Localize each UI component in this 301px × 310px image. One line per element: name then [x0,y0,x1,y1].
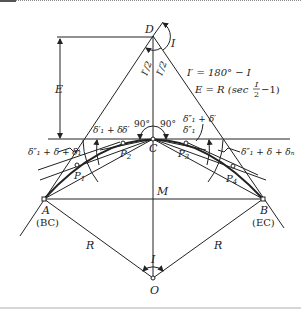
radius-right-line [153,199,263,278]
label-P2: P2 [119,148,132,161]
curve-diagram: D I E C M A (BC) B (EC) R R I O P1 P2 P3… [0,0,301,310]
tangent-left-line [20,36,153,236]
label-I-top: I [170,37,176,50]
point-P4 [231,164,235,168]
label-A: A [41,204,50,217]
label-E: E [54,83,63,96]
label-D: D [144,23,154,36]
angle-arc-I-top [163,23,170,50]
label-P4: P4 [225,173,237,186]
label-M: M [156,185,169,198]
label-delta-right-top-a: δ″₁ + δ′ [183,114,216,124]
formula-E-den: 2 [254,90,259,99]
radius-left-line [44,199,153,278]
label-delta-right-top-b: δ″₁ [183,125,195,135]
point-B [261,197,265,201]
label-90-left: 90° [134,119,150,129]
point-A [42,197,46,201]
label-EC: (EC) [252,217,275,228]
point-O [151,276,155,280]
point-C [151,137,155,141]
label-I-bottom: I [150,253,156,266]
label-delta-right-side: δ″₁ + δ + δₙ [241,147,295,157]
label-90-right: 90° [160,119,176,129]
diagram-frame: D I E C M A (BC) B (EC) R R I O P1 P2 P3… [0,0,301,310]
label-delta-left-side: δ″₁ + δ + δ₁ [28,147,81,157]
label-P1: P1 [73,170,85,183]
label-B: B [259,204,268,217]
label-half-right: I′/2 [154,60,169,78]
formula-E-prefix: E = R (sec [194,84,249,95]
point-P2 [121,141,125,145]
label-half-left: I′/2 [139,60,154,78]
label-R-left: R [85,239,94,252]
label-delta-left-top-a: δ′₁ + δ [93,125,123,135]
label-O: O [150,284,159,297]
point-P1 [75,163,79,167]
leader-right-top [196,124,203,141]
tangent-extension-line [153,22,163,36]
leader-right [218,148,240,152]
label-C: C [149,142,158,155]
point-P3 [184,141,188,145]
deflection-arc-left-2 [83,140,98,182]
formula-E-num: I [254,80,259,89]
label-R-right: R [213,239,222,252]
formula-E-suffix: −1) [261,84,280,95]
label-P3: P3 [177,148,190,161]
formula-I-prime: I′ = 180° − I [186,67,252,78]
deflection-arc-left-1 [96,140,99,165]
label-BC: (BC) [36,217,59,228]
label-delta-left-top-b: δ′ [122,125,129,135]
